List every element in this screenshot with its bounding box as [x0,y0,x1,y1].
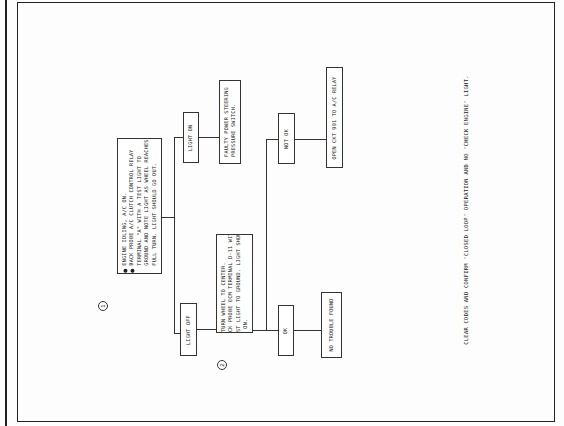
branch-light-off-box: LIGHT OFF [180,303,197,356]
bullet-icon [130,269,134,273]
result-faulty-line-1: FAULTY POWER STEERING [223,87,230,157]
result-no-trouble-box: NO TROUBLE FOUND [321,292,342,358]
document-page: 1 ENGINE IDLING, A/C ON. BACK PROBE A/C … [0,0,564,426]
result-faulty-switch-box: FAULTY POWER STEERING PRESSURE SWITCH. [219,80,241,164]
step-2-box: RETURN WHEEL TO CENTER. BACK PROBE ECM T… [216,234,253,333]
connector-open-ckt [295,139,326,140]
step-2-line-2: BACK PROBE ECM TERMINAL D-11 WITH A [227,234,234,333]
result-open-circuit-text: OPEN CKT 901 TO A/C RELAY [331,76,338,159]
footer-note: CLEAR CODES AND CONFIRM "CLOSED LOOP" OP… [463,75,469,344]
step-1-line-1: ENGINE IDLING, A/C ON. [121,139,128,272]
connector-step2-trunk [253,330,266,331]
step-2-line-4: BE ON. [242,234,249,333]
connector-ok [266,330,278,331]
branch-not-ok-label: NOT OK [283,129,290,149]
connector-light-on [174,137,183,138]
step-2-number: 2 [217,360,227,370]
result-no-trouble-text: NO TROUBLE FOUND [328,298,335,351]
step-2-number-label: 2 [218,363,226,366]
step-1-text: ENGINE IDLING, A/C ON. BACK PROBE A/C CL… [121,139,158,272]
page-border [17,2,555,422]
branch-not-ok-box: NOT OK [278,113,295,164]
step-1-line-4: GROUND AND NOTE LIGHT AS WHEEL REACHES [143,139,150,272]
connector-no-trouble [294,330,321,331]
step-1-number: 1 [98,301,108,311]
step-1-number-label: 1 [99,304,107,307]
branch-trunk-2 [266,139,267,331]
branch-ok-box: OK [278,305,294,356]
connector-faulty [199,137,219,138]
branch-trunk-1 [174,137,175,333]
step-1-line-5: FULL TURN. LIGHT SHOULD GO OUT. [151,139,158,272]
connector-not-ok [266,139,278,140]
bullet-icon [123,269,127,273]
branch-light-on-label: LIGHT ON [187,124,194,151]
step-1-line-3: TERMINAL "A" WITH A TEST LIGHT TO [136,139,143,272]
result-open-circuit-box: OPEN CKT 901 TO A/C RELAY [326,67,343,168]
branch-light-on-box: LIGHT ON [183,112,199,163]
connector-step2 [197,329,216,330]
step-2-text: RETURN WHEEL TO CENTER. BACK PROBE ECM T… [220,234,250,333]
step-1-box: ENGINE IDLING, A/C ON. BACK PROBE A/C CL… [117,138,162,274]
branch-light-off-label: LIGHT OFF [185,315,192,345]
step-2-line-1: RETURN WHEEL TO CENTER. [220,234,227,333]
result-faulty-switch-text: FAULTY POWER STEERING PRESSURE SWITCH. [223,87,238,157]
branch-ok-label: OK [282,327,289,334]
result-faulty-line-2: PRESSURE SWITCH. [230,87,237,157]
page-edge-rule [5,0,7,426]
connector-step1-trunk [162,217,174,218]
step-1-line-2: BACK PROBE A/C CLUTCH CONTROL RELAY [128,139,135,272]
step-2-line-3: TEST LIGHT TO GROUND. LIGHT SHOULD [235,234,242,333]
